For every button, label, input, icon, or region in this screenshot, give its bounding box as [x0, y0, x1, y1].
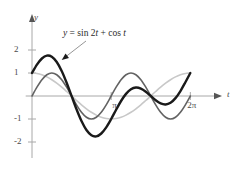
annotation-arrow-group [62, 41, 86, 60]
x-tick-label-2pi: 2π [187, 100, 196, 110]
y-axis-label: y [34, 12, 38, 22]
y-tick-label: 2 [14, 44, 19, 54]
x-axis-label: t [227, 89, 230, 99]
y-tick-label: -2 [14, 136, 22, 146]
annotation-arrowhead [62, 54, 69, 61]
y-tick-label: -1 [14, 113, 22, 123]
figure-container: 21-1-2π2πyt y = sin 2t + cos t [0, 0, 242, 171]
annotation-leader-line [65, 41, 86, 58]
y-tick-label: 1 [14, 67, 19, 77]
plot-canvas [0, 0, 242, 171]
x-axis-arrowhead [214, 93, 222, 99]
x-tick-label-pi: π [112, 100, 117, 110]
curve-equation-annotation: y = sin 2t + cos t [63, 28, 126, 38]
